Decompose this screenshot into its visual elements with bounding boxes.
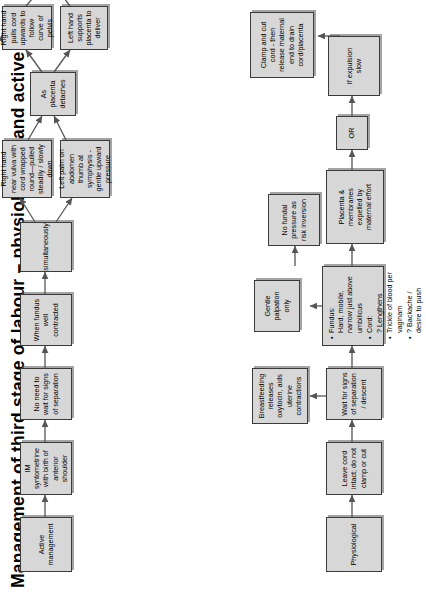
- node-im-syntometrine[interactable]: IM syntometrine with birth of anterior s…: [20, 442, 72, 495]
- node-wait-for-signs[interactable]: Wait for signs of separation / descent: [326, 368, 382, 420]
- node-if-expulsion-slow[interactable]: If expulsion slow: [328, 36, 380, 96]
- flowchart-canvas: Management of third stage of labour – ph…: [0, 0, 426, 602]
- signs-list-item: ? Backache / desire to push: [405, 271, 423, 333]
- signs-list-item: Fundus: Hard, mobile, narrow just above …: [327, 271, 364, 333]
- node-breastfeeding-oxytocin[interactable]: Breastfeeding releases oxytocin, aids ut…: [252, 368, 308, 424]
- signs-list-item: Cord: ? Lengthens: [365, 271, 383, 333]
- node-left-palm-on-abdomen[interactable]: Left palm on abdomen thumb at symphysis …: [60, 140, 110, 198]
- node-gentle-palpation-only[interactable]: Gentle palpation only: [254, 280, 300, 332]
- node-simultaneously[interactable]: simultaneously: [20, 222, 72, 272]
- node-or[interactable]: OR: [336, 116, 368, 150]
- edge-righthand-to-detaches: [28, 116, 42, 140]
- node-signs-of-separation-list[interactable]: Fundus: Hard, mobile, narrow just above …: [322, 266, 384, 346]
- signs-list: Fundus: Hard, mobile, narrow just above …: [327, 271, 425, 340]
- node-fundus-well-contracted[interactable]: When fundus well contracted: [20, 294, 72, 346]
- node-clamp-and-cut-cord[interactable]: Clamp and cut cord - then release matern…: [250, 12, 314, 78]
- edge-sim-to-leftpalm: [56, 198, 72, 222]
- node-placenta-membranes-expelled[interactable]: Placenta & membranes expelled by materna…: [326, 170, 384, 244]
- node-leave-cord-intact[interactable]: Leave cord intact; do not clamp or cut: [326, 442, 382, 495]
- edge-leftpalm-to-detaches: [54, 116, 66, 140]
- signs-list-item: Trickle of blood per vaginam: [385, 271, 403, 333]
- node-no-need-to-wait[interactable]: No need to wait for signs of separation: [20, 368, 72, 420]
- node-as-placenta-detaches[interactable]: As placenta detaches: [30, 72, 76, 116]
- node-right-hand-pulls-cord[interactable]: Right hand pulls cord upwards to follow …: [2, 6, 52, 50]
- node-right-hand-near-vulva[interactable]: Right hand near vulva with cord wrapped …: [2, 140, 52, 198]
- node-active-management[interactable]: Active management: [20, 517, 72, 572]
- node-no-fundal-pressure[interactable]: No fundal pressure as risk inversion: [268, 194, 320, 246]
- node-left-hand-supports-placenta[interactable]: Left hand supports placenta to deliver: [60, 6, 108, 50]
- node-physiological[interactable]: Physiological: [326, 517, 382, 572]
- edge-detaches-to-supports: [54, 50, 70, 72]
